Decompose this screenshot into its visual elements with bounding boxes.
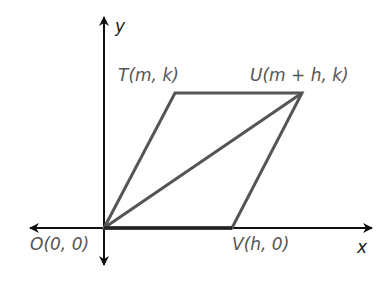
y-axis-label: y xyxy=(115,18,125,35)
point-T-label: T(m, k) xyxy=(118,67,179,84)
parallelogram-diagram: y x T(m, k) U(m + h, k) O(0, 0) V(h, 0) xyxy=(0,0,385,290)
point-V-label: V(h, 0) xyxy=(232,236,289,253)
point-U-label: U(m + h, k) xyxy=(250,67,349,84)
x-axis-label: x xyxy=(357,239,367,256)
point-O-label: O(0, 0) xyxy=(30,236,89,253)
diagonal-OU xyxy=(104,93,302,228)
